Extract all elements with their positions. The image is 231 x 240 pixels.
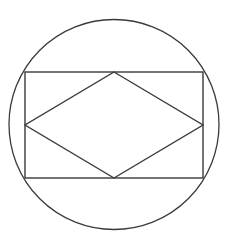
inscribed-rectangle [25,72,203,178]
circumscribed-circle [9,20,219,230]
inscribed-rhombus [25,72,203,178]
geometry-diagram [0,0,231,240]
